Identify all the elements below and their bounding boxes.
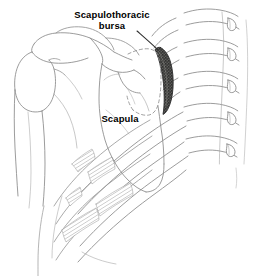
anatomy-drawing (0, 0, 263, 276)
spinous-process (226, 144, 235, 157)
bursa-leader-line (137, 31, 158, 50)
label-scapula: Scapula (80, 113, 160, 124)
anatomical-illustration: Scapulothoracic bursa Scapula (0, 0, 263, 276)
scapulothoracic-bursa (155, 47, 173, 114)
humerus-group (14, 52, 82, 208)
vertebrae-group (184, 9, 248, 188)
spinous-process (227, 48, 236, 61)
spinous-process (227, 80, 236, 93)
spinous-process (227, 112, 236, 125)
spinous-process (227, 18, 236, 31)
label-scapulothoracic-bursa: Scapulothoracic bursa (52, 9, 172, 31)
